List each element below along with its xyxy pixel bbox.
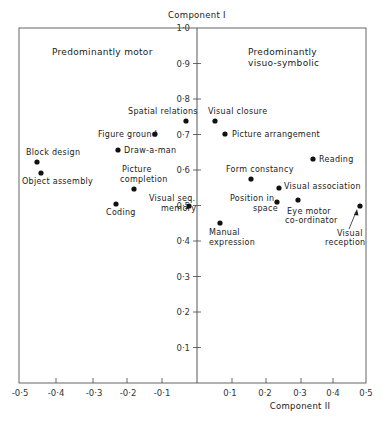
y-tick-label: 0·7 [176, 130, 190, 140]
label-form-constancy: Form constancy [226, 165, 294, 174]
region-label-visuo: visuo-symbolic [248, 58, 319, 68]
point-object-assembly [38, 170, 43, 175]
point-block-design [34, 159, 39, 164]
point-form-constancy [248, 176, 253, 181]
label-picture-completion: completion [120, 175, 168, 184]
label-object-assembly: Object assembly [22, 177, 93, 186]
label-visual-seq-memory: Visual seq. [149, 194, 195, 203]
y-tick-label: 1·0 [176, 23, 190, 33]
label-eye-motor: co-ordinator [285, 216, 338, 225]
arrow-visual-reception [349, 209, 359, 229]
y-tick-label: 0·4 [176, 236, 190, 246]
point-visual-reception [357, 203, 362, 208]
label-visual-seq-memory: memory [161, 204, 196, 213]
y-tick-label: 0·2 [176, 307, 190, 317]
label-position-in-space: space [253, 204, 278, 213]
x-ticks [56, 378, 333, 383]
y-tick-label: 0·9 [176, 59, 190, 69]
point-visual-association [276, 185, 281, 190]
label-manual-expression: Manual [209, 228, 240, 237]
region-label-visuo: Predominantly [248, 47, 317, 57]
label-draw-a-man: Draw-a-man [124, 146, 176, 155]
x-tick-label: 0·5 [359, 388, 373, 398]
x-tick-label: 0·3 [293, 388, 307, 398]
label-position-in-space: Position in [230, 194, 274, 203]
x-tick-label: -0·3 [86, 388, 103, 398]
label-eye-motor: Eye motor [287, 207, 331, 216]
point-reading [310, 156, 315, 161]
label-manual-expression: expression [209, 238, 255, 247]
label-visual-reception: reception [325, 238, 365, 247]
label-spatial-relations: Spatial relations [128, 107, 198, 116]
x-axis-title: Component II [270, 401, 331, 411]
point-visual-closure [212, 118, 217, 123]
label-picture-completion: Picture [122, 165, 152, 174]
label-picture-arrangement: Picture arrangement [232, 130, 320, 139]
x-tick-label: 0·1 [223, 388, 237, 398]
label-visual-association: Visual association [284, 182, 361, 191]
point-labels: Spatial relations Figure ground Draw-a-m… [22, 107, 365, 247]
point-picture-arrangement [222, 131, 227, 136]
x-tick-label: -0·2 [120, 388, 137, 398]
x-tick-label: 0·2 [258, 388, 272, 398]
x-tick-label: -0·1 [154, 388, 171, 398]
y-tick-labels: 0·1 0·2 0·3 0·4 0·5 0·6 0·7 0·8 0·9 1·0 [176, 23, 190, 353]
y-tick-label: 0·6 [176, 165, 190, 175]
point-manual-expression [217, 220, 222, 225]
label-visual-closure: Visual closure [208, 107, 267, 116]
x-tick-label: 0·4 [326, 388, 340, 398]
y-tick-label: 0·3 [176, 272, 190, 282]
point-draw-a-man [115, 147, 120, 152]
label-figure-ground: Figure ground [98, 130, 157, 139]
x-tick-label: -0·5 [12, 388, 29, 398]
y-tick-label: 0·8 [176, 94, 190, 104]
x-tick-label: -0·4 [48, 388, 65, 398]
y-axis-title: Component I [168, 10, 226, 20]
label-block-design: Block design [26, 148, 80, 157]
point-picture-completion [131, 186, 136, 191]
point-spatial-relations [183, 118, 188, 123]
label-visual-reception: Visual [337, 229, 363, 238]
x-tick-labels: -0·5 -0·4 -0·3 -0·2 -0·1 0·1 0·2 0·3 0·4… [12, 388, 373, 398]
scatter-chart: 0·1 0·2 0·3 0·4 0·5 0·6 0·7 0·8 0·9 1·0 … [0, 0, 387, 422]
label-coding: Coding [106, 208, 136, 217]
point-eye-motor [295, 197, 300, 202]
label-reading: Reading [319, 155, 354, 164]
y-tick-label: 0·1 [176, 343, 190, 353]
point-coding [113, 201, 118, 206]
region-label-motor: Predominantly motor [52, 47, 153, 57]
